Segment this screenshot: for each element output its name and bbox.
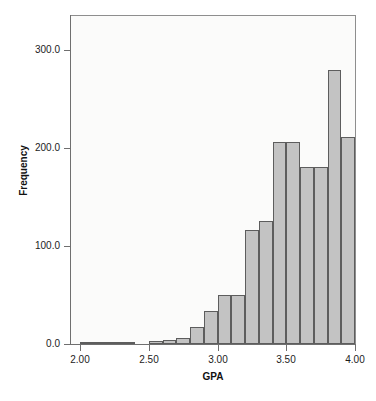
histogram-bar (314, 167, 328, 344)
histogram-bar (231, 295, 245, 344)
x-axis-tick-label: 3.00 (193, 354, 243, 365)
y-axis-line (70, 15, 71, 345)
histogram-bar (328, 70, 342, 344)
histogram-bar (259, 221, 273, 345)
x-axis-tick-label: 2.00 (55, 354, 105, 365)
histogram-bar (286, 142, 300, 344)
histogram-bar (273, 142, 287, 344)
y-axis-title: Frequency (18, 126, 29, 216)
y-axis-tick-label: 200.0 (0, 142, 60, 153)
histogram-bar (204, 311, 218, 344)
y-axis-tick-label: 100.0 (0, 240, 60, 251)
x-axis-tick (286, 345, 287, 351)
x-axis-tick (355, 345, 356, 351)
y-axis-tick (64, 246, 70, 247)
plot-area (70, 15, 356, 345)
x-axis-tick (149, 345, 150, 351)
x-axis-title: GPA (70, 371, 356, 382)
x-axis-tick-label: 3.50 (261, 354, 311, 365)
x-axis-tick (218, 345, 219, 351)
y-axis-tick (64, 50, 70, 51)
histogram-bar (300, 167, 314, 344)
y-axis-tick (64, 344, 70, 345)
y-axis-tick-label: 0.0 (0, 338, 60, 349)
x-axis-tick (80, 345, 81, 351)
histogram-bar (218, 295, 232, 344)
histogram-bar (341, 137, 355, 344)
x-axis-tick-label: 4.00 (330, 354, 376, 365)
x-axis-tick-label: 2.50 (124, 354, 174, 365)
y-axis-tick-label: 300.0 (0, 44, 60, 55)
y-axis-tick (64, 148, 70, 149)
histogram-bar (190, 327, 204, 344)
x-axis-line (70, 344, 356, 345)
histogram-chart: Frequency GPA 0.0100.0200.0300.02.002.50… (0, 0, 376, 401)
histogram-bar (245, 230, 259, 344)
